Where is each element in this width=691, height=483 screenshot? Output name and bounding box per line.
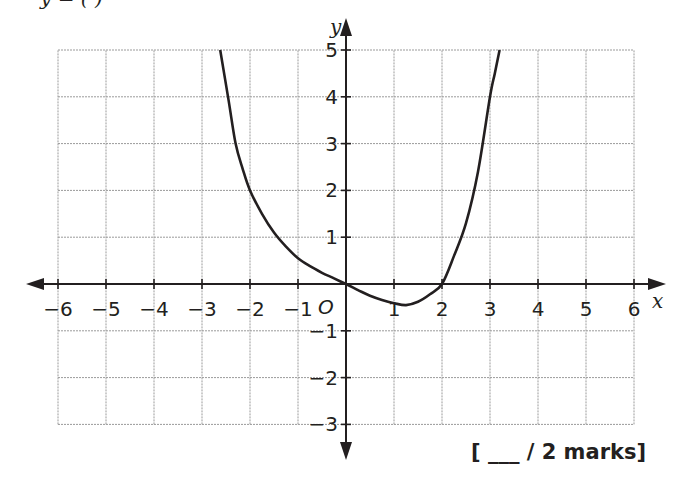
function-graph: −6−5−4−3−2−1123456−3−2−112345 x y O bbox=[0, 0, 691, 483]
y-tick-label: 3 bbox=[325, 132, 338, 156]
marks-label: [ ___ / 2 marks] bbox=[471, 440, 646, 464]
y-tick-label: −1 bbox=[309, 319, 338, 343]
x-tick-label: −1 bbox=[283, 297, 312, 321]
x-tick-label: 1 bbox=[388, 297, 401, 321]
y-axis-arrow-down-icon bbox=[340, 442, 352, 460]
origin-label: O bbox=[318, 295, 334, 319]
x-tick-label: −3 bbox=[187, 297, 216, 321]
y-tick-label: 1 bbox=[325, 225, 338, 249]
y-tick-label: 4 bbox=[325, 85, 338, 109]
x-tick-label: 5 bbox=[580, 297, 593, 321]
x-tick-label: −2 bbox=[235, 297, 264, 321]
y-tick-label: 2 bbox=[325, 178, 338, 202]
axes bbox=[26, 18, 666, 460]
y-axis-arrow-up-icon bbox=[340, 18, 352, 36]
y-tick-label: −3 bbox=[309, 412, 338, 436]
y-tick-label: 5 bbox=[325, 38, 338, 62]
x-tick-label: −4 bbox=[139, 297, 168, 321]
x-axis-label: x bbox=[652, 289, 663, 313]
x-tick-label: 2 bbox=[436, 297, 449, 321]
x-tick-label: 6 bbox=[628, 297, 641, 321]
x-tick-label: 4 bbox=[532, 297, 545, 321]
function-curve bbox=[220, 50, 499, 305]
x-axis-arrow-left-icon bbox=[26, 278, 44, 290]
x-tick-label: 3 bbox=[484, 297, 497, 321]
x-tick-label: −5 bbox=[91, 297, 120, 321]
x-tick-label: −6 bbox=[43, 297, 72, 321]
y-tick-label: −2 bbox=[309, 366, 338, 390]
y-axis-label: y bbox=[329, 15, 342, 39]
